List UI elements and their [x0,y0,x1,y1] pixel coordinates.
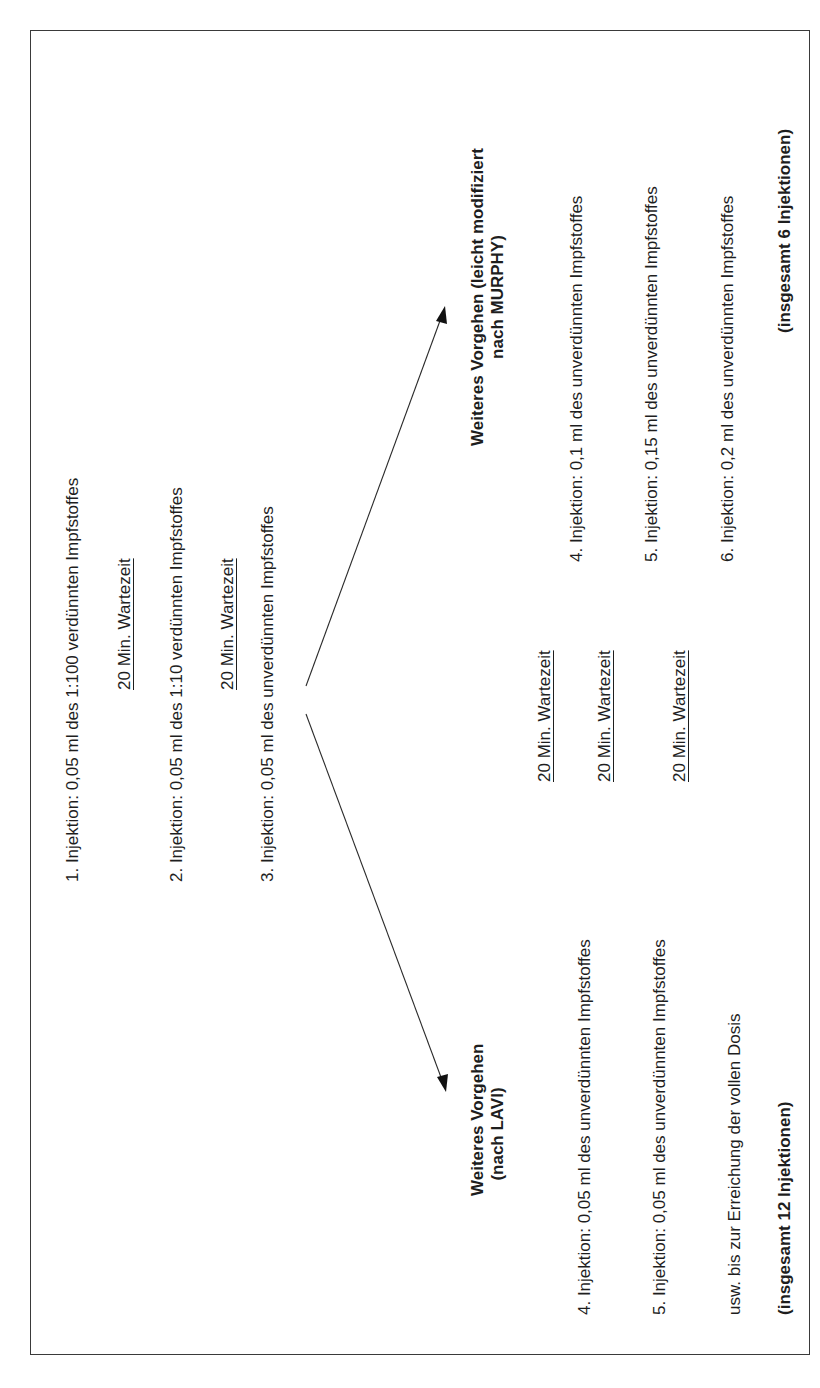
murphy-step-4: 4. Injektion: 0,1 ml des unverdünnten Im… [566,196,588,562]
murphy-step-5: 5. Injektion: 0,15 ml des unverdünnten I… [641,186,663,562]
lavi-branch-title: Weiteres Vorgehen (nach LAVI) [468,1072,508,1196]
murphy-title-line-1: Weiteres Vorgehen (leicht modifiziert [468,92,488,502]
murphy-title-line-2: nach MURPHY) [488,92,508,502]
lavi-step-continue: usw. bis zur Erreichung der vollen Dosis [724,1014,746,1315]
murphy-total: (insgesamt 6 Injektionen) [774,129,796,333]
murphy-branch-title: Weiteres Vorgehen (leicht modifiziert na… [468,92,508,502]
murphy-step-6: 6. Injektion: 0,2 ml des unverdünnten Im… [717,196,739,562]
lavi-step-5: 5. Injektion: 0,05 ml des unverdünnten I… [649,939,671,1315]
lavi-total: (insgesamt 12 Injektionen) [774,1102,796,1316]
lavi-title-line-2: (nach LAVI) [488,1072,508,1196]
murphy-wait-2: 20 Min. Wartezeit [594,650,616,782]
lavi-title-line-1: Weiteres Vorgehen [468,1072,488,1196]
lavi-step-4: 4. Injektion: 0,05 ml des unverdünnten I… [574,939,596,1315]
arrow-to-lavi [306,714,448,1092]
arrow-to-murphy [306,306,447,686]
murphy-wait-1: 20 Min. Wartezeit [534,650,556,782]
murphy-wait-3: 20 Min. Wartezeit [669,650,691,782]
branch-arrows [0,0,820,1388]
